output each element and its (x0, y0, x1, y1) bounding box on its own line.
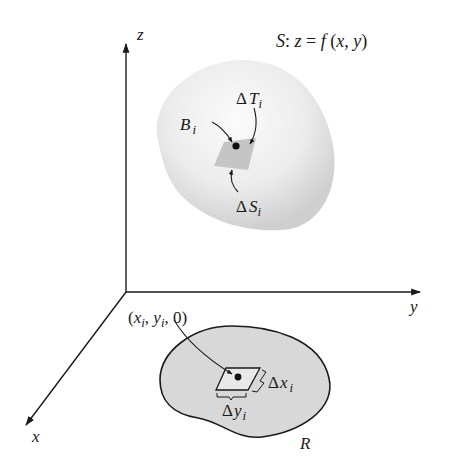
z-axis-label: z (136, 25, 144, 44)
y-axis-label: y (408, 297, 418, 316)
surface-area-diagram: z y x S: z = f (x, y) ΔTi Bi ΔSi (xi, yi… (0, 0, 454, 475)
point-xy0-dot (235, 374, 242, 381)
x-axis-label: x (31, 427, 40, 446)
point-xy0-label: (xi, yi, 0) (128, 308, 187, 330)
x-axis (26, 292, 126, 425)
point-b-dot (232, 142, 239, 149)
region-r-label: R (299, 434, 311, 453)
surface-equation-label: S: z = f (x, y) (276, 31, 367, 52)
